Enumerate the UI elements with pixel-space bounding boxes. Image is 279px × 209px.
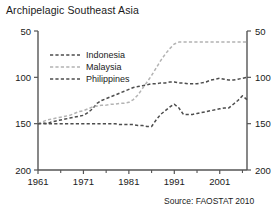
y-axis-label-right: 150 xyxy=(255,118,271,129)
y-axis-label-left: 150 xyxy=(15,118,31,129)
y-axis-label-left: 100 xyxy=(15,72,31,83)
y-axis-label-left: 200 xyxy=(15,165,31,176)
x-axis-label: 1981 xyxy=(118,176,139,187)
chart-legend: IndonesiaMalaysiaPhilippines xyxy=(50,50,130,84)
series-line-indonesia xyxy=(38,77,247,123)
legend-label-indonesia: Indonesia xyxy=(86,50,125,60)
chart-plot-area: 2002001501501001005050196119711981199120… xyxy=(0,0,279,209)
y-axis-label-right: 200 xyxy=(255,165,271,176)
x-axis-label: 1991 xyxy=(164,176,185,187)
source-note: Source: FAOSTAT 2010 xyxy=(164,196,254,206)
y-axis-label-right: 100 xyxy=(255,72,271,83)
line-chart-svg: 2002001501501001005050196119711981199120… xyxy=(0,0,279,209)
series-line-philippines xyxy=(38,96,247,127)
legend-label-philippines: Philippines xyxy=(86,74,130,84)
x-axis-label: 2001 xyxy=(209,176,230,187)
x-axis-label: 1971 xyxy=(73,176,94,187)
legend-label-malaysia: Malaysia xyxy=(86,62,122,72)
x-axis-label: 1961 xyxy=(27,176,48,187)
axis-group: 2002001501501001005050196119711981199120… xyxy=(15,26,271,188)
y-axis-label-left: 50 xyxy=(20,26,31,37)
y-axis-label-right: 50 xyxy=(255,26,266,37)
